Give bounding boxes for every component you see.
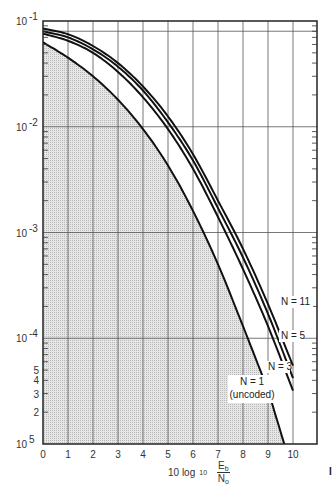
denominator-subscript: o <box>225 478 229 485</box>
y-decade-exponent: -4 <box>29 328 38 339</box>
y-minor-label: 3 <box>33 389 39 400</box>
x-tick-label: 7 <box>215 449 221 460</box>
y-decade-exponent: -1 <box>29 11 38 22</box>
eb-no-fraction: Eb No <box>217 460 230 485</box>
y-decade-label: 10 <box>16 439 28 450</box>
curve-label: N = 11 <box>281 296 310 307</box>
y-minor-label: 2 <box>33 407 39 418</box>
x-tick-label: 10 <box>287 449 299 460</box>
ber-chart: 012345678910 10-110-210-310-41055432 N =… <box>0 0 334 498</box>
y-decade-label: 10 <box>16 122 28 133</box>
y-decade-label: 10 <box>16 333 28 344</box>
x-tick-label: 4 <box>140 449 146 460</box>
x-tick-label: 8 <box>240 449 246 460</box>
y-axis-tick-labels: 10-110-210-310-41055432 <box>16 11 40 450</box>
curve-label: N = 5 <box>281 330 306 341</box>
fraction-denominator: N <box>218 473 225 484</box>
x-tick-label: 5 <box>165 449 171 460</box>
x-tick-label: 6 <box>190 449 196 460</box>
curve-label: N = 1 <box>240 376 265 387</box>
curve-label-sub: (uncoded) <box>229 389 274 400</box>
y-decade-exponent: 5 <box>29 434 35 445</box>
cropped-caption-edge: I <box>329 466 334 486</box>
x-axis-tick-labels: 012345678910 <box>40 449 299 460</box>
x-axis-label-subscript: 10 <box>199 469 207 476</box>
numerator-subscript: b <box>225 465 229 472</box>
x-axis-label-prefix: 10 log <box>168 467 195 478</box>
x-tick-label: 1 <box>65 449 71 460</box>
curve-label: N = 3 <box>268 361 293 372</box>
y-decade-exponent: -3 <box>29 223 38 234</box>
x-tick-label: 3 <box>115 449 121 460</box>
y-minor-label: 4 <box>33 375 39 386</box>
x-tick-label: 9 <box>265 449 271 460</box>
y-decade-label: 10 <box>16 228 28 239</box>
y-decade-exponent: -2 <box>29 117 38 128</box>
x-tick-label: 0 <box>40 449 46 460</box>
fraction-numerator: E <box>218 460 225 471</box>
x-tick-label: 2 <box>90 449 96 460</box>
y-decade-label: 10 <box>16 16 28 27</box>
x-axis-label: 10 log10 Eb No <box>168 460 230 485</box>
